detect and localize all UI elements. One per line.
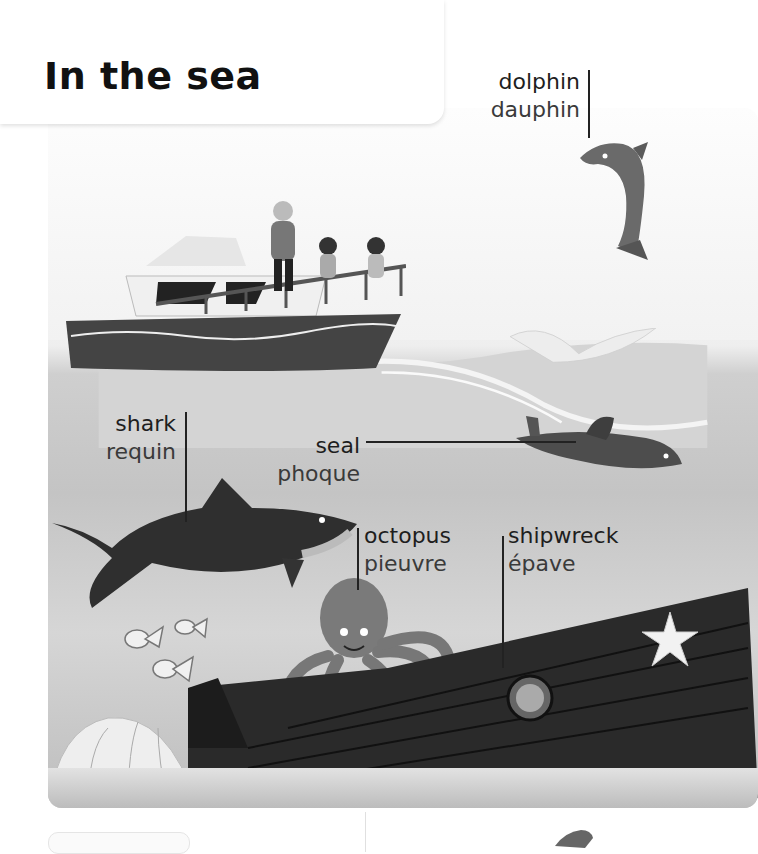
label-dolphin-en: dolphin	[470, 68, 580, 96]
small-dolphin-icon	[555, 828, 595, 848]
label-octopus-en: octopus	[364, 522, 474, 550]
sea-floor	[48, 768, 758, 808]
label-octopus-fr: pieuvre	[364, 550, 474, 578]
label-shipwreck: shipwreck épave	[508, 522, 648, 578]
page-title: In the sea	[44, 54, 262, 98]
dolphin-icon	[578, 136, 658, 266]
leader-line-seal	[366, 441, 576, 443]
label-shark-fr: requin	[80, 438, 176, 466]
title-card: In the sea	[0, 0, 444, 124]
label-shipwreck-fr: épave	[508, 550, 648, 578]
striped-fish-icon	[123, 613, 233, 693]
label-seal-fr: phoque	[250, 460, 360, 488]
leader-line-shark	[185, 412, 187, 522]
next-section-card	[48, 832, 190, 854]
label-shark: shark requin	[80, 410, 176, 466]
seal-icon	[516, 408, 686, 478]
label-seal-en: seal	[250, 432, 360, 460]
label-shark-en: shark	[80, 410, 176, 438]
label-dolphin-fr: dauphin	[470, 96, 580, 124]
leader-line-dolphin	[588, 70, 590, 138]
label-octopus: octopus pieuvre	[364, 522, 474, 578]
label-dolphin: dolphin dauphin	[470, 68, 580, 124]
label-seal: seal phoque	[250, 432, 360, 488]
column-divider	[365, 812, 366, 852]
starfish-icon	[640, 610, 700, 670]
label-shipwreck-en: shipwreck	[508, 522, 648, 550]
leader-line-shipwreck	[502, 536, 504, 668]
leader-line-octopus	[357, 528, 359, 590]
boat-icon	[66, 196, 406, 376]
